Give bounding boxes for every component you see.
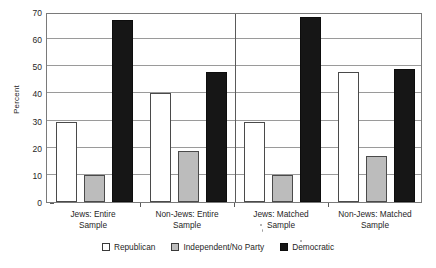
bar-democratic-group-4 [394,69,415,202]
legend-item-independent-no-party[interactable]: Independent/No Party [171,242,264,252]
gridline [47,147,421,148]
bar-democratic-group-1 [112,20,133,202]
gridline [47,38,421,39]
legend-item-republican[interactable]: Republican [102,242,156,252]
category-label-line1: Jews: Matched [253,209,308,219]
bar-democratic-group-3 [300,17,321,202]
bar-independent-no-party-group-2 [178,151,199,202]
bar-independent-no-party-group-3 [272,175,293,202]
gridline [47,92,421,93]
x-axis-tick-mark [328,203,329,207]
y-axis-tick-label: 40 [16,90,42,99]
bar-democratic-group-2 [206,72,227,202]
bar-republican-group-2 [150,93,171,202]
bar-republican-group-1 [56,122,77,202]
y-axis-tick-labels: 706050403020100 [12,13,42,203]
x-axis-tick-mark [234,203,235,207]
legend-label: Independent/No Party [183,242,264,252]
y-axis-tick-label: 0 [16,199,42,208]
y-axis-tick-label: 50 [16,63,42,72]
x-axis-tick-mark [140,203,141,207]
democratic-swatch [280,243,288,251]
x-axis-category-label: Non-Jews: MatchedSample [320,209,430,230]
legend-label: Democratic [292,242,334,252]
legend-item-democratic[interactable]: Democratic [280,242,334,252]
legend-label: Republican [114,242,156,252]
category-label-line1: Jews: Entire [70,209,115,219]
y-axis-tick-label: 20 [16,145,42,154]
chart-legend: RepublicanIndependent/No PartyDemocratic [0,242,436,252]
gridline [47,65,421,66]
y-axis-tick-mark [50,203,54,204]
independent-swatch [171,243,179,251]
y-axis-tick-label: 30 [16,118,42,127]
republican-swatch [102,243,110,251]
y-axis-tick-label: 10 [16,172,42,181]
bar-independent-no-party-group-1 [84,175,105,202]
y-axis-tick-label: 60 [16,36,42,45]
bar-republican-group-3 [244,122,265,202]
grouped-bar-chart: Percent 706050403020100 RepublicanIndepe… [0,0,436,268]
category-label-line1: Non-Jews: Entire [155,209,218,219]
category-label-line1: Non-Jews: Matched [338,209,411,219]
sample-group-divider [235,14,236,202]
scan-artifact-speck [300,240,302,242]
gridline [47,120,421,121]
category-label-line2: Sample [320,220,430,231]
y-axis-tick-label: 70 [16,9,42,18]
bar-republican-group-4 [338,72,359,202]
plot-area [46,13,422,203]
bar-independent-no-party-group-4 [366,156,387,202]
